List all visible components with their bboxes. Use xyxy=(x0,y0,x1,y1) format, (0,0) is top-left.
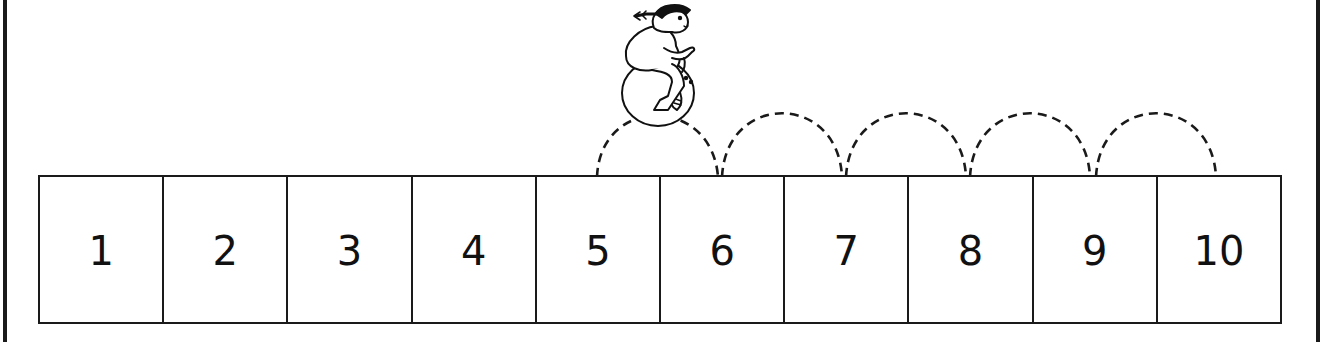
hop-arc-9-10 xyxy=(1096,113,1216,177)
hop-arc-6-7 xyxy=(722,113,842,177)
hop-arcs xyxy=(597,113,1216,177)
hop-arcs-overlay xyxy=(0,0,1326,342)
hop-arc-7-8 xyxy=(846,113,966,177)
hop-arc-8-9 xyxy=(970,113,1090,177)
girl-on-space-hopper-icon xyxy=(622,5,694,126)
